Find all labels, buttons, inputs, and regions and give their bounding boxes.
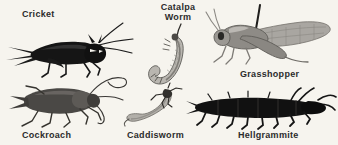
figure-grasshopper bbox=[202, 2, 338, 70]
cockroach-rear bbox=[9, 96, 29, 109]
cricket-head-spikes-icon bbox=[88, 34, 102, 43]
label-catalpa-worm-line1: Catalpa bbox=[161, 2, 196, 12]
label-cockroach: Cockroach bbox=[22, 130, 71, 140]
grasshopper-eye bbox=[218, 32, 224, 40]
label-catalpa-worm: CatalpaWorm bbox=[150, 2, 206, 22]
figure-catalpa-worm bbox=[140, 24, 200, 89]
catalpa-worm-head bbox=[172, 34, 179, 41]
catalpa-worm-horn-icon bbox=[177, 24, 181, 36]
figure-caddisworm bbox=[120, 86, 186, 128]
figure-cockroach bbox=[4, 76, 129, 128]
grasshopper-hind-tarsus bbox=[285, 57, 308, 62]
label-cricket: Cricket bbox=[22, 9, 55, 19]
figure-hellgrammite bbox=[186, 88, 336, 130]
label-catalpa-worm-line2: Worm bbox=[165, 12, 192, 22]
label-caddisworm: Caddisworm bbox=[127, 130, 184, 140]
label-hellgrammite: Hellgrammite bbox=[238, 130, 299, 140]
figure-cricket bbox=[4, 20, 134, 80]
grasshopper-antennae-icon bbox=[206, 9, 220, 30]
cricket-head bbox=[84, 43, 106, 63]
insect-illustration-plate: Cricket bbox=[0, 0, 338, 145]
label-grasshopper: Grasshopper bbox=[240, 69, 299, 79]
